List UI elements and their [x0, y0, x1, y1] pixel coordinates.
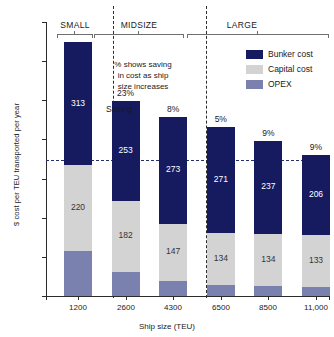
segment-bunker-6500: 271: [207, 127, 235, 233]
x-axis-line: [46, 296, 329, 297]
legend-swatch-opex: [246, 80, 263, 89]
segment-bunker-value-4300: 273: [159, 165, 187, 174]
bar-4300[interactable]: 273147: [159, 117, 187, 296]
y-tick-400: [42, 139, 46, 140]
legend-swatch-capital-cost: [246, 65, 263, 74]
x-tick-8500: [268, 296, 269, 300]
bar-8500[interactable]: 237134: [254, 141, 282, 296]
x-tick-1200: [78, 296, 79, 300]
group-label-large: LARGE: [212, 20, 272, 30]
x-tick-4300: [173, 296, 174, 300]
x-tick-2600: [126, 296, 127, 300]
segment-capital-value-11,000: 133: [302, 256, 330, 265]
segment-capital-4300: 147: [159, 224, 187, 282]
group-label-midsize: MIDSIZE: [104, 20, 174, 30]
y-axis-label: $ cost per TEU transported per year: [12, 65, 21, 265]
y-tick-100: [42, 257, 46, 258]
segment-bunker-value-1200: 313: [64, 99, 92, 108]
x-tick-label-11,000: 11,000: [290, 303, 334, 312]
segment-capital-1200: 220: [64, 165, 92, 251]
x-axis-label: Ship size (TEU): [0, 322, 334, 331]
x-tick-label-2600: 2600: [100, 303, 152, 312]
cost-per-teu-stacked-bar-chart: $ cost per TEU transported per year Ship…: [0, 0, 334, 337]
saving-pointer-label: Saving: [95, 104, 143, 114]
segment-bunker-1200: 313: [64, 42, 92, 165]
saving-note-annotation: % shows saving in cost as ship size incr…: [100, 59, 186, 92]
y-tick-700: [42, 22, 46, 23]
legend-label-opex: OPEX: [268, 80, 292, 89]
segment-bunker-value-6500: 271: [207, 175, 235, 184]
segment-capital-value-2600: 182: [112, 231, 140, 240]
x-tick-6500: [221, 296, 222, 300]
segment-capital-8500: 134: [254, 234, 282, 286]
segment-bunker-value-2600: 253: [112, 146, 140, 155]
segment-opex-1200: [64, 251, 92, 296]
x-boundary-tick-0: [46, 296, 47, 300]
legend-label-capital-cost: Capital cost: [268, 65, 312, 74]
legend-item-opex[interactable]: OPEX: [246, 78, 313, 91]
bracket-large: [187, 31, 329, 38]
segment-capital-value-8500: 134: [254, 255, 282, 264]
y-tick-500: [42, 100, 46, 101]
x-tick-label-8500: 8500: [242, 303, 294, 312]
x-tick-label-1200: 1200: [52, 303, 104, 312]
bracket-midsize: [94, 31, 184, 38]
bar-6500[interactable]: 271134: [207, 127, 235, 296]
y-tick-600: [42, 61, 46, 62]
segment-bunker-2600: 253: [112, 101, 140, 200]
legend-swatch-bunker-cost: [246, 50, 263, 59]
segment-bunker-8500: 237: [254, 141, 282, 234]
segment-capital-2600: 182: [112, 201, 140, 272]
x-tick-label-4300: 4300: [147, 303, 199, 312]
segment-capital-value-6500: 134: [207, 254, 235, 263]
segment-bunker-4300: 273: [159, 117, 187, 224]
bar-11,000[interactable]: 206133: [302, 155, 330, 296]
segment-opex-2600: [112, 272, 140, 296]
percent-saving-8500: 9%: [238, 129, 298, 138]
segment-capital-6500: 134: [207, 233, 235, 285]
bar-1200[interactable]: 313220: [64, 42, 92, 296]
bar-2600[interactable]: 253182: [112, 101, 140, 296]
legend-item-capital-cost[interactable]: Capital cost: [246, 63, 313, 76]
segment-opex-4300: [159, 281, 187, 296]
legend-label-bunker-cost: Bunker cost: [268, 50, 313, 59]
segment-bunker-value-8500: 237: [254, 182, 282, 191]
legend: Bunker cost Capital cost OPEX: [246, 48, 313, 93]
bracket-small: [57, 31, 93, 38]
segment-opex-6500: [207, 285, 235, 296]
segment-opex-11,000: [302, 287, 330, 296]
legend-item-bunker-cost[interactable]: Bunker cost: [246, 48, 313, 61]
segment-capital-11,000: 133: [302, 235, 330, 287]
y-tick-200: [42, 218, 46, 219]
segment-opex-8500: [254, 286, 282, 296]
x-boundary-tick-1: [329, 296, 330, 300]
segment-bunker-value-11,000: 206: [302, 190, 330, 199]
x-tick-label-6500: 6500: [195, 303, 247, 312]
y-tick-300: [42, 179, 46, 180]
percent-saving-11,000: 9%: [286, 143, 334, 152]
x-tick-11,000: [316, 296, 317, 300]
segment-bunker-11,000: 206: [302, 155, 330, 236]
segment-capital-value-1200: 220: [64, 203, 92, 212]
segment-capital-value-4300: 147: [159, 247, 187, 256]
percent-saving-6500: 5%: [191, 115, 251, 124]
percent-saving-4300: 8%: [143, 105, 203, 114]
group-label-small: SMALL: [48, 20, 102, 30]
